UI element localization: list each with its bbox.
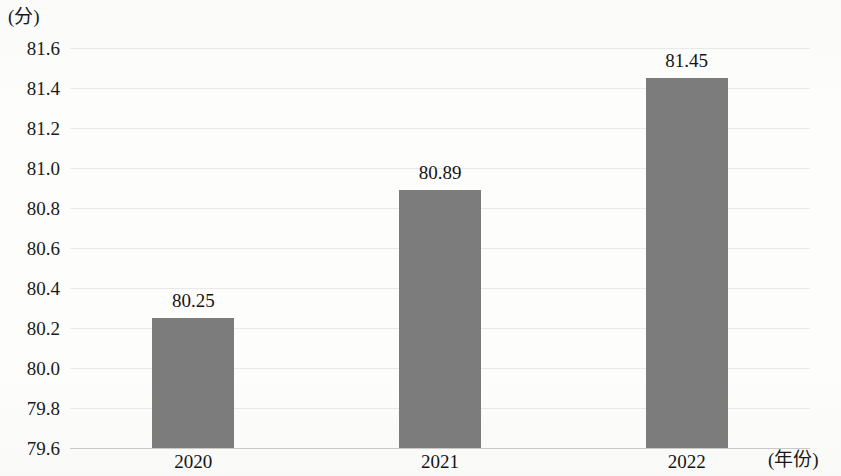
bar-value-label: 81.45 (627, 51, 747, 70)
bar[interactable] (646, 78, 728, 448)
bar-value-label: 80.89 (380, 163, 500, 182)
y-axis-tick-label: 79.6 (0, 439, 60, 458)
y-axis-tick-label: 81.0 (0, 159, 60, 178)
plot-area (70, 48, 810, 448)
y-axis-tick-label: 81.4 (0, 79, 60, 98)
y-axis-tick-label: 80.2 (0, 319, 60, 338)
bar-chart: (分) (年份) 81.681.481.281.080.880.680.480.… (0, 0, 841, 476)
bar-value-label: 80.25 (133, 291, 253, 310)
bar[interactable] (152, 318, 234, 448)
y-axis-unit-label: (分) (8, 6, 40, 28)
y-axis-tick-label: 80.4 (0, 279, 60, 298)
gridline (70, 448, 810, 449)
bar[interactable] (399, 190, 481, 448)
y-axis-tick-label: 80.8 (0, 199, 60, 218)
y-axis-tick-label: 80.6 (0, 239, 60, 258)
y-axis-tick-label: 79.8 (0, 399, 60, 418)
y-axis-tick-label: 81.2 (0, 119, 60, 138)
gridline (70, 48, 810, 49)
x-axis-unit-label: (年份) (768, 449, 819, 471)
y-axis-tick-label: 81.6 (0, 39, 60, 58)
x-axis-tick-label: 2022 (627, 452, 747, 471)
x-axis-tick-label: 2021 (380, 452, 500, 471)
y-axis-tick-label: 80.0 (0, 359, 60, 378)
x-axis-tick-label: 2020 (133, 452, 253, 471)
